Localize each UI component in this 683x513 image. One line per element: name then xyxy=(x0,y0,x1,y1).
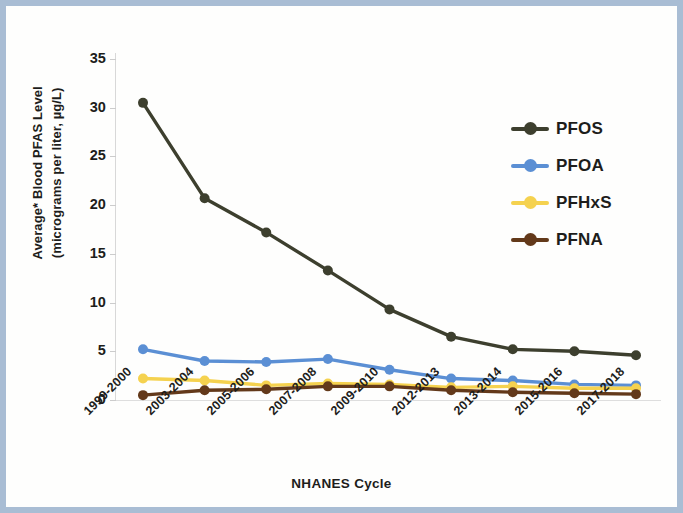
legend-item-pfoa[interactable]: PFOA xyxy=(511,151,661,181)
legend-label: PFOS xyxy=(556,119,603,139)
figure-canvas: 05101520253035 Average* Blood PFAS Level… xyxy=(6,6,677,507)
legend-item-pfna[interactable]: PFNA xyxy=(511,225,661,255)
x-axis-tick-label: 2013-2014 xyxy=(451,364,504,417)
x-axis-tick-label: 2015-2016 xyxy=(512,364,565,417)
x-axis-tick-label: 2009-2010 xyxy=(328,364,381,417)
legend-marker-icon xyxy=(511,159,549,173)
legend-marker-icon xyxy=(511,196,549,210)
x-axis-tick-label: 2017-2018 xyxy=(574,364,627,417)
x-axis-tick-label: 2012-2013 xyxy=(389,364,442,417)
legend-label: PFHxS xyxy=(556,193,612,213)
x-axis-title: NHANES Cycle xyxy=(6,476,677,491)
legend-label: PFOA xyxy=(556,156,604,176)
x-axis-tick-label: 2007-2008 xyxy=(266,364,319,417)
x-axis-tick-label: 2003-2004 xyxy=(143,364,196,417)
legend-item-pfhxs[interactable]: PFHxS xyxy=(511,188,661,218)
x-axis-tick-label: 2005-2006 xyxy=(204,364,257,417)
x-axis-tick-label: 1999-2000 xyxy=(81,364,134,417)
chart-legend: PFOSPFOAPFHxSPFNA xyxy=(511,114,661,262)
legend-item-pfos[interactable]: PFOS xyxy=(511,114,661,144)
figure-frame: 05101520253035 Average* Blood PFAS Level… xyxy=(0,0,683,513)
legend-label: PFNA xyxy=(556,230,603,250)
legend-marker-icon xyxy=(511,122,549,136)
legend-marker-icon xyxy=(511,233,549,247)
